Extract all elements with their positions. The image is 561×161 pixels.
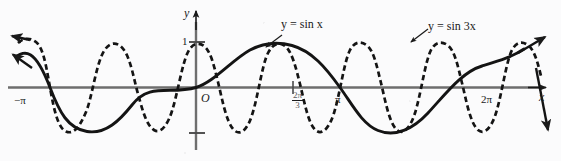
y-axis-label: y — [184, 7, 189, 19]
fraction-two-pi-over-three: 2π 3 — [292, 91, 303, 110]
origin-label: O — [201, 92, 210, 104]
sin-3x-curve-label: y = sin 3x — [428, 20, 476, 32]
x-tick-label-pi: π — [335, 94, 341, 105]
y-tick-label-1: 1 — [182, 36, 188, 47]
x-tick-label-neg-pi: −π — [14, 95, 26, 106]
curve-sin-x-start-arrow — [13, 55, 32, 69]
x-tick-label-two-pi-over-three: 2π 3 — [292, 91, 303, 110]
sine-graph-figure: y x O 1 −π 2π 3 π 2π y = sin x y = sin 3… — [0, 0, 561, 161]
sin-3x-leader-line — [411, 29, 428, 42]
sin-x-curve-label: y = sin x — [281, 18, 323, 30]
x-axis-label: x — [539, 91, 544, 103]
curve-sin-3x — [18, 39, 541, 133]
x-tick-label-two-pi: 2π — [481, 94, 492, 105]
